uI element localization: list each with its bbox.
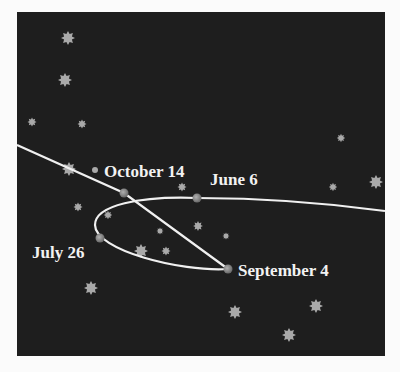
star-icon [228,305,242,319]
star-icon [161,246,170,255]
path-line-segment [197,198,385,211]
star-icon [177,182,186,191]
label-june: June 6 [210,171,258,188]
label-september: September 4 [238,262,329,279]
star-icon [369,175,383,189]
planet-position-july [96,234,105,243]
star-icon [157,228,164,235]
star-icon [309,299,323,313]
star-icon [77,119,86,128]
star-icon [104,211,112,219]
star-icon [73,202,82,211]
star-icon [193,221,203,231]
star-icon [329,183,337,191]
star-icon [58,73,72,87]
star-icon [84,281,98,295]
star-icon [282,328,296,342]
planet-position-september [224,265,233,274]
star-icon [223,233,230,240]
planet-positions [96,189,233,274]
label-july: July 26 [32,244,84,261]
label-october: October 14 [104,163,184,180]
planet-position-june [193,194,202,203]
star-icon [61,31,75,45]
sky-diagram [0,0,400,372]
retrograde-loop [95,198,228,270]
background-stars [27,31,383,342]
star-icon [337,134,345,142]
star-icon [27,117,36,126]
star-icon [92,167,98,173]
planet-position-october [120,189,129,198]
